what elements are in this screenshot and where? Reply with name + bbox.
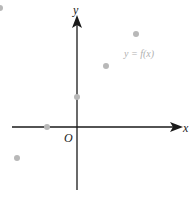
data-point (74, 94, 80, 100)
x-axis-label: x (182, 121, 189, 135)
data-point (44, 124, 50, 130)
origin-label: O (64, 131, 73, 145)
data-point (103, 63, 109, 69)
data-point (14, 155, 20, 161)
data-point (133, 31, 139, 37)
coordinate-plane: x y O y = f(x) (0, 0, 192, 197)
function-label: y = f(x) (123, 48, 155, 60)
data-point (0, 5, 3, 11)
y-axis-label: y (72, 3, 79, 17)
